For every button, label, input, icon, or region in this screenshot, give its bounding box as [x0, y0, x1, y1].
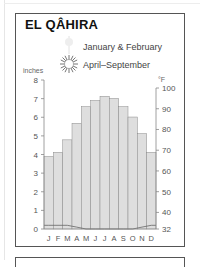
month-label: D [149, 234, 155, 243]
temperature-bar [147, 152, 156, 229]
left-tick-label: 7 [34, 95, 39, 104]
left-tick-label: 0 [34, 225, 39, 234]
left-tick-label: 3 [34, 169, 39, 178]
temperature-bar [91, 100, 100, 229]
right-tick-label: 60 [162, 167, 171, 176]
month-label: N [139, 234, 144, 243]
month-label: J [93, 234, 97, 243]
temperature-bar [63, 140, 72, 229]
right-tick-label: 32 [162, 225, 171, 234]
temperature-bar [119, 107, 128, 229]
left-tick-label: 4 [34, 151, 39, 160]
left-tick-label: 6 [34, 113, 39, 122]
right-tick-label: 50 [162, 188, 171, 197]
month-label: M [64, 234, 70, 243]
temperature-bar [44, 156, 53, 229]
right-tick-label: 90 [162, 105, 171, 114]
right-tick-label: 100 [162, 84, 176, 93]
temperature-bar [72, 123, 81, 229]
temperature-bar [81, 107, 90, 229]
right-tick-label: 40 [162, 208, 171, 217]
month-label: A [74, 234, 79, 243]
temperature-bar [137, 134, 146, 229]
month-label: O [130, 234, 136, 243]
month-label: J [103, 234, 107, 243]
right-tick-label: 80 [162, 125, 171, 134]
left-tick-label: 8 [34, 76, 39, 85]
right-tick-label: 70 [162, 146, 171, 155]
temperature-bar [128, 117, 137, 229]
month-label: A [111, 234, 116, 243]
temperature-bar [109, 98, 118, 229]
month-label: J [47, 234, 51, 243]
month-label: M [83, 234, 89, 243]
month-label: S [121, 234, 126, 243]
temperature-bar [100, 96, 109, 229]
left-tick-label: 5 [34, 132, 39, 141]
left-tick-label: 2 [34, 188, 39, 197]
temperature-bar [53, 152, 62, 229]
left-tick-label: 1 [34, 206, 39, 215]
month-label: F [56, 234, 61, 243]
